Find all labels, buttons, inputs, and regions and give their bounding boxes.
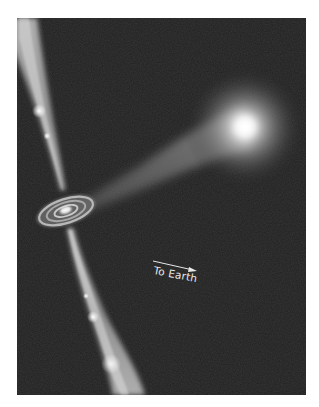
jet-knot [87, 311, 99, 323]
binary-system-artwork [17, 18, 306, 395]
illustration-frame: To Earth [17, 18, 306, 395]
jet-knot [101, 354, 121, 374]
jet-knot [44, 133, 51, 140]
star-core [235, 117, 255, 137]
jet-knot [32, 104, 46, 118]
jet-knot [83, 293, 89, 299]
